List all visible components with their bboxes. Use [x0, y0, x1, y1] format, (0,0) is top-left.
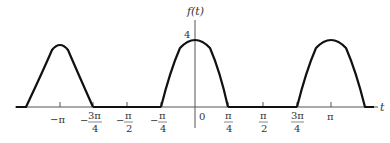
pulse-right — [297, 40, 374, 107]
tick-label-neg-pi4-den: 4 — [160, 123, 166, 134]
tick-label-pi: π — [327, 111, 334, 122]
y-peak-label: 4 — [184, 29, 190, 40]
tick-label-3pi4-num: 3π — [291, 110, 304, 121]
pulse-left — [16, 45, 93, 107]
tick-label-neg-3pi4-num: 3π — [88, 110, 101, 121]
tick-label-neg-pi4-num: π — [159, 110, 166, 121]
tick-label-3pi4-den: 4 — [294, 123, 300, 134]
tick-minus-neg-pi2: − — [116, 115, 124, 126]
tick-label-zero: 0 — [199, 111, 205, 122]
tick-label-pi2-num: π — [260, 110, 267, 121]
tick-label-neg-pi: −π — [50, 114, 65, 125]
y-axis-label: f(t) — [186, 5, 204, 18]
tick-label-neg-3pi4-den: 4 — [92, 123, 98, 134]
tick-label-neg-pi2-den: 2 — [126, 123, 132, 134]
tick-label-pi4-num: π — [225, 110, 232, 121]
tick-label-pi2-den: 2 — [261, 123, 267, 134]
tick-minus-neg-pi4: − — [150, 115, 158, 126]
tick-label-pi4-den: 4 — [226, 123, 232, 134]
function-plot: f(t) t 4 −π − 3π 4 − π 2 − π 4 0 π 4 π 2… — [0, 0, 390, 143]
tick-label-neg-pi2-num: π — [125, 110, 132, 121]
x-axis-label: t — [380, 101, 385, 114]
